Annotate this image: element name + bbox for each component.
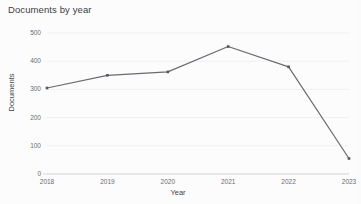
data-point-marker[interactable] (167, 71, 170, 74)
data-point-marker[interactable] (348, 157, 351, 160)
x-tick-label: 2018 (30, 178, 64, 185)
x-tick-label: 2019 (90, 178, 124, 185)
data-point-marker[interactable] (287, 66, 290, 69)
x-axis-title: Year (0, 188, 356, 197)
y-tick-label: 200 (15, 114, 41, 121)
y-tick-label: 300 (15, 85, 41, 92)
y-tick-label: 100 (15, 142, 41, 149)
series-line-documents (47, 47, 349, 159)
x-tick-label: 2022 (272, 178, 306, 185)
data-point-marker[interactable] (46, 87, 49, 90)
x-tick-label: 2020 (151, 178, 185, 185)
data-point-marker[interactable] (227, 45, 230, 48)
y-axis-title: Documents (7, 63, 16, 123)
y-tick-label: 400 (15, 57, 41, 64)
x-tick-label: 2021 (211, 178, 245, 185)
data-point-marker[interactable] (106, 74, 109, 77)
data-series-group (46, 45, 351, 160)
y-tick-label: 500 (15, 29, 41, 36)
gridlines-group (47, 33, 349, 174)
y-tick-label: 0 (15, 170, 41, 177)
x-tick-label: 2023 (332, 178, 361, 185)
